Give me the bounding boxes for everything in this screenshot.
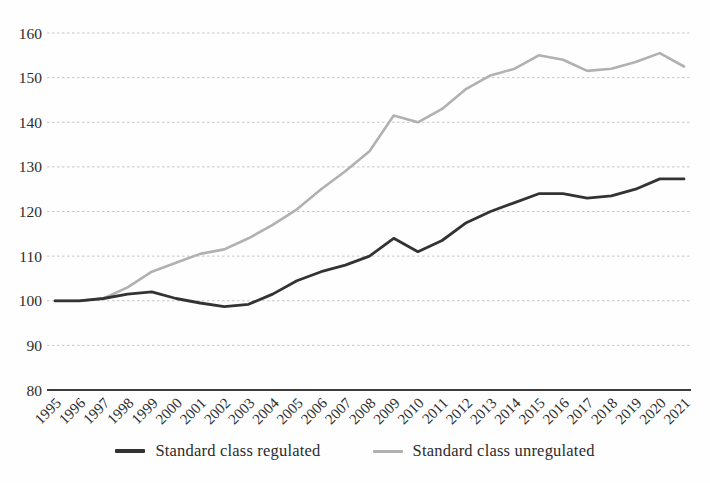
series-line-standard-class-unregulated — [55, 53, 684, 301]
legend-item-regulated: Standard class regulated — [115, 441, 320, 461]
legend-label-regulated: Standard class regulated — [155, 441, 320, 461]
x-axis-tick-label: 2013 — [467, 395, 500, 428]
y-axis-tick-label: 160 — [19, 25, 43, 42]
chart-page: 8090100110120130140150160199519961997199… — [0, 0, 710, 483]
y-axis-tick-label: 120 — [19, 203, 43, 220]
x-axis-tick-label: 2003 — [225, 395, 258, 428]
y-axis-tick-label: 110 — [19, 248, 42, 265]
x-axis-tick-label: 2002 — [201, 395, 234, 428]
x-axis-tick-label: 2020 — [636, 395, 669, 428]
y-axis-tick-label: 100 — [19, 292, 43, 309]
x-axis-tick-label: 1995 — [32, 395, 65, 428]
series-line-standard-class-regulated — [55, 179, 684, 307]
y-axis-tick-label: 140 — [19, 114, 43, 131]
x-axis-tick-label: 2001 — [177, 395, 210, 428]
x-axis-tick-label: 2012 — [443, 395, 476, 428]
line-chart: 8090100110120130140150160199519961997199… — [0, 0, 710, 483]
chart-legend: Standard class regulated Standard class … — [0, 441, 710, 461]
x-axis-tick-label: 2000 — [153, 395, 186, 428]
x-axis-tick-label: 2015 — [515, 395, 548, 428]
legend-label-unregulated: Standard class unregulated — [413, 441, 595, 461]
x-axis-tick-label: 2005 — [274, 395, 307, 428]
chart-plot-area: 8090100110120130140150160199519961997199… — [0, 0, 710, 440]
legend-swatch-unregulated — [373, 450, 403, 453]
x-axis-tick-label: 1999 — [128, 395, 161, 428]
x-axis-tick-label: 1998 — [104, 395, 137, 428]
x-axis-tick-label: 2021 — [661, 395, 694, 428]
y-axis-tick-label: 90 — [27, 337, 43, 354]
y-axis-tick-label: 150 — [19, 69, 43, 86]
x-axis-tick-label: 2010 — [394, 395, 427, 428]
x-axis-tick-label: 2009 — [370, 395, 403, 428]
legend-swatch-regulated — [115, 449, 145, 452]
x-axis-tick-label: 2008 — [346, 395, 379, 428]
x-axis-tick-label: 2019 — [612, 395, 645, 428]
legend-item-unregulated: Standard class unregulated — [373, 441, 595, 461]
x-axis-tick-label: 2011 — [419, 395, 451, 427]
x-axis-tick-label: 2018 — [588, 395, 621, 428]
y-axis-tick-label: 130 — [19, 158, 43, 175]
y-axis-tick-label: 80 — [27, 382, 43, 399]
